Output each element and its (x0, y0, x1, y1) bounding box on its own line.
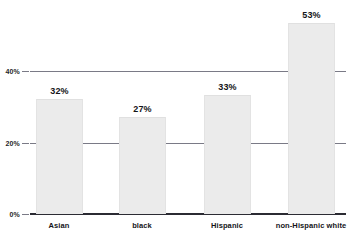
bar-non-hispanic-white[interactable]: 53% (288, 23, 335, 214)
plot-area: 40% 20% 0% 32% 27% 33% 53% (30, 18, 346, 215)
bar-chart: 40% 20% 0% 32% 27% 33% 53% Asian black H… (0, 0, 356, 244)
bar-hispanic[interactable]: 33% (204, 95, 251, 214)
ytick-right-20 (334, 143, 346, 144)
ytick-right-40 (334, 71, 346, 72)
ytick-stub-20 (22, 143, 29, 144)
bar-black[interactable]: 27% (119, 117, 166, 214)
ytick-stub-40 (22, 71, 29, 72)
xtick-label-hispanic: Hispanic (211, 221, 243, 230)
bar-value-non-hispanic-white: 53% (302, 10, 321, 20)
cropped-title-remnant (6, 0, 236, 6)
bar-value-asian: 32% (50, 86, 69, 96)
ytick-label-20: 20% (5, 140, 20, 147)
bar-asian[interactable]: 32% (36, 99, 83, 214)
xtick-label-non-hispanic-white: non-Hispanic white (276, 221, 347, 230)
ytick-label-40: 40% (5, 68, 20, 75)
xtick-label-black: black (132, 221, 152, 230)
ytick-stub-0 (22, 214, 29, 215)
xtick-label-asian: Asian (49, 221, 70, 230)
ytick-label-0: 0% (9, 211, 20, 218)
gridline-40: 40% (30, 71, 317, 72)
bar-value-hispanic: 33% (218, 82, 237, 92)
bar-value-black: 27% (133, 104, 152, 114)
